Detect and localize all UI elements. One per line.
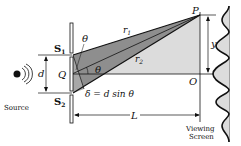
label-theta-mid: θ [95, 64, 101, 75]
d-arrow-bottom [44, 87, 48, 92]
label-O: O [189, 76, 197, 87]
source-dot [14, 71, 21, 78]
label-Q: Q [58, 69, 66, 80]
intensity-pattern-fill [213, 6, 229, 142]
L-arrow-right [195, 113, 200, 117]
label-viewing: Viewing [185, 125, 215, 133]
label-screen: Screen [189, 133, 214, 141]
label-P: P [191, 5, 199, 16]
barrier-top [70, 23, 73, 53]
y-arrow-top [206, 16, 210, 21]
barrier-middle [70, 57, 73, 91]
label-S1: S1 [54, 43, 65, 55]
label-source: Source [4, 104, 29, 112]
source-wave-icon-2 [24, 66, 29, 82]
label-delta-equation: δ = d sin θ [85, 89, 134, 99]
d-arrow-top [44, 56, 48, 61]
label-L: L [130, 110, 138, 121]
label-r1: r1 [123, 25, 131, 36]
barrier-bottom [70, 95, 73, 123]
label-S2: S2 [54, 96, 65, 108]
L-arrow-left [74, 113, 79, 117]
y-arrow-bottom [206, 68, 210, 73]
label-y: y [210, 38, 217, 49]
label-d: d [38, 68, 44, 79]
double-slit-diagram: S1 S2 Q d θ θ r1 r2 P O y L δ = d sin θ … [0, 0, 241, 146]
source-wave-icon [22, 68, 25, 80]
label-theta-top: θ [82, 33, 88, 44]
